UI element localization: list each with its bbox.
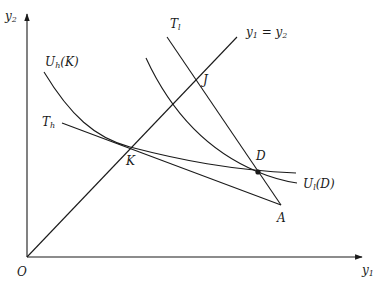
u-low-label: Ul(D): [303, 178, 335, 192]
point-d-label: D: [256, 150, 266, 162]
point-a-label: A: [277, 212, 286, 224]
point-j-label: J: [203, 74, 208, 86]
diagram-canvas: [0, 0, 378, 286]
u-high-label: Uh(K): [45, 56, 79, 70]
t-low-label: Tl: [170, 18, 181, 32]
y-axis-label: y2: [5, 10, 17, 24]
x-axis-label: y1: [362, 264, 374, 278]
diagonal-label: y1 = y2: [246, 26, 287, 40]
t-low-line: [167, 37, 281, 205]
point-d-marker: [255, 169, 260, 174]
point-k-label: K: [126, 155, 135, 167]
t-high-line: [62, 123, 281, 205]
t-high-label: Th: [42, 116, 55, 130]
origin-label: O: [17, 266, 27, 278]
u-low-curve: [146, 58, 297, 183]
